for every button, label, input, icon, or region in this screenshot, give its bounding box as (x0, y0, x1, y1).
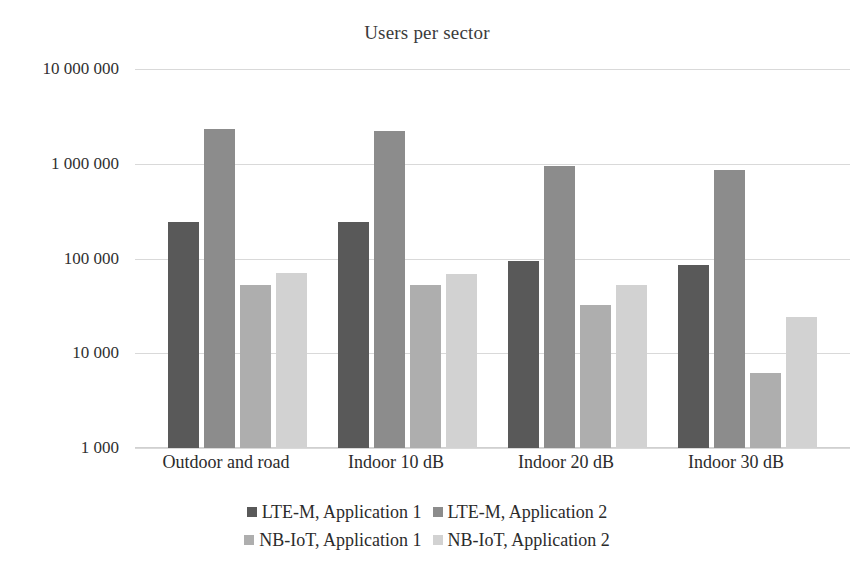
legend-label: NB-IoT, Application 1 (259, 530, 421, 551)
y-axis-tick-label: 1 000 (0, 438, 128, 458)
bar[interactable] (714, 170, 745, 448)
chart-root: Users per sector 10 000 0001 000 000100 … (0, 0, 854, 586)
legend-swatch-icon (244, 535, 254, 545)
bar[interactable] (240, 285, 271, 448)
bar[interactable] (750, 373, 781, 448)
plot-area (135, 69, 850, 448)
bar[interactable] (410, 285, 441, 448)
x-axis-tick-label: Outdoor and road (146, 452, 306, 473)
legend-item[interactable]: NB-IoT, Application 2 (433, 530, 610, 551)
gridline-1000 (135, 448, 850, 449)
x-axis-tick-label: Indoor 30 dB (656, 452, 816, 473)
legend-swatch-icon (433, 535, 443, 545)
chart-legend: LTE-M, Application 1LTE-M, Application 2… (0, 498, 854, 554)
legend-row-bottom: NB-IoT, Application 1NB-IoT, Application… (0, 526, 854, 554)
bar[interactable] (276, 273, 307, 448)
bar[interactable] (204, 129, 235, 448)
legend-label: LTE-M, Application 2 (448, 502, 608, 523)
y-axis-tick-label: 100 000 (0, 249, 128, 269)
bar-group-1 (168, 69, 307, 448)
legend-label: LTE-M, Application 1 (262, 502, 422, 523)
bar[interactable] (616, 285, 647, 448)
legend-swatch-icon (247, 507, 257, 517)
bar-group-2 (338, 69, 477, 448)
x-axis-labels: Outdoor and roadIndoor 10 dBIndoor 20 dB… (135, 452, 850, 482)
x-axis-tick-label: Indoor 10 dB (316, 452, 476, 473)
bar[interactable] (446, 274, 477, 448)
bar[interactable] (508, 261, 539, 448)
legend-item[interactable]: LTE-M, Application 1 (247, 502, 422, 523)
y-axis-tick-label: 10 000 000 (0, 59, 128, 79)
bar[interactable] (374, 131, 405, 448)
legend-swatch-icon (433, 507, 443, 517)
y-axis-tick-label: 1 000 000 (0, 154, 128, 174)
x-axis-tick-label: Indoor 20 dB (486, 452, 646, 473)
bar[interactable] (678, 265, 709, 448)
legend-label: NB-IoT, Application 2 (448, 530, 610, 551)
bar[interactable] (338, 222, 369, 448)
bar-group-4 (678, 69, 817, 448)
legend-item[interactable]: LTE-M, Application 2 (433, 502, 608, 523)
bar-group-3 (508, 69, 647, 448)
bar[interactable] (168, 222, 199, 448)
chart-title: Users per sector (0, 22, 854, 44)
bars-layer (135, 69, 850, 448)
legend-row-top: LTE-M, Application 1LTE-M, Application 2 (0, 498, 854, 526)
bar[interactable] (786, 317, 817, 448)
y-axis-tick-label: 10 000 (0, 343, 128, 363)
bar[interactable] (580, 305, 611, 448)
legend-item[interactable]: NB-IoT, Application 1 (244, 530, 421, 551)
bar[interactable] (544, 166, 575, 448)
